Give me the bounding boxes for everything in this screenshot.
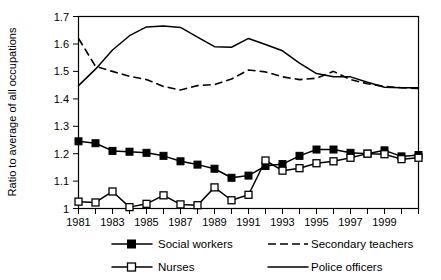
y-tick-label-1-1: 1.1	[54, 175, 69, 187]
x-tick-label-1995: 1995	[304, 216, 328, 228]
chart-figure: 1.7 1.6 1.5 1.4 1.3 1.2 1.1 1 Ratio to a…	[0, 0, 441, 280]
data-point-marker	[313, 160, 320, 167]
y-tick-label-1-2: 1.2	[54, 148, 69, 160]
data-point-marker	[279, 167, 286, 174]
y-tick-label-1-5: 1.5	[54, 65, 69, 77]
open-square-icon	[128, 263, 136, 271]
x-tick-label-1987: 1987	[168, 216, 192, 228]
legend: Social workers Nurses Secondary teachers…	[112, 238, 414, 273]
y-axis-title: Ratio to average of all occupations	[6, 27, 18, 196]
x-tick-label-1981: 1981	[66, 216, 90, 228]
data-point-marker	[92, 140, 99, 147]
data-point-marker	[143, 200, 150, 207]
data-point-marker	[381, 151, 388, 158]
y-tick-label-1-4: 1.4	[54, 93, 69, 105]
x-tick-label-1999: 1999	[372, 216, 396, 228]
data-point-marker	[398, 156, 405, 163]
x-tick-label-1985: 1985	[134, 216, 158, 228]
data-point-marker	[228, 174, 235, 181]
x-tick-label-1983: 1983	[100, 216, 124, 228]
data-point-marker	[296, 165, 303, 172]
y-tick-label-1: 1	[63, 203, 69, 215]
series-path	[79, 154, 419, 207]
y-axis-tick-labels: 1.7 1.6 1.5 1.4 1.3 1.2 1.1 1	[54, 11, 69, 215]
legend-item-police-officers[interactable]: Police officers	[268, 261, 383, 273]
legend-label-police-officers: Police officers	[311, 261, 383, 273]
legend-label-social-workers: Social workers	[158, 238, 233, 250]
data-point-marker	[364, 150, 371, 157]
data-point-marker	[75, 198, 82, 205]
y-axis-ticks	[73, 17, 79, 209]
data-point-marker	[126, 148, 133, 155]
data-point-marker	[75, 138, 82, 145]
plot-frame	[79, 17, 419, 209]
data-point-marker	[194, 202, 201, 209]
data-point-marker	[262, 157, 269, 164]
data-point-marker	[177, 201, 184, 208]
data-point-marker	[177, 158, 184, 165]
x-tick-label-1991: 1991	[236, 216, 260, 228]
series-nurses	[75, 150, 422, 210]
data-point-marker	[194, 161, 201, 168]
legend-item-social-workers[interactable]: Social workers	[112, 238, 233, 250]
series-police-officers	[79, 26, 419, 88]
data-point-marker	[330, 158, 337, 165]
data-point-marker	[313, 146, 320, 153]
x-axis-tick-labels: 1981 1983 1985 1987 1989 1991 1993 1995 …	[66, 216, 396, 228]
data-point-marker	[160, 152, 167, 159]
x-tick-label-1993: 1993	[270, 216, 294, 228]
legend-item-secondary-teachers[interactable]: Secondary teachers	[268, 238, 414, 250]
series-layer	[75, 26, 422, 211]
data-point-marker	[245, 191, 252, 198]
x-tick-label-1997: 1997	[338, 216, 362, 228]
data-point-marker	[330, 146, 337, 153]
data-point-marker	[347, 154, 354, 161]
data-point-marker	[211, 184, 218, 191]
data-point-marker	[92, 199, 99, 206]
legend-item-nurses[interactable]: Nurses	[112, 261, 195, 273]
data-point-marker	[143, 149, 150, 156]
y-tick-label-1-7: 1.7	[54, 11, 69, 23]
series-social-workers	[75, 138, 422, 181]
y-tick-label-1-6: 1.6	[54, 38, 69, 50]
legend-label-secondary-teachers: Secondary teachers	[311, 238, 414, 250]
filled-square-icon	[128, 240, 136, 248]
data-point-marker	[228, 197, 235, 204]
data-point-marker	[109, 147, 116, 154]
data-point-marker	[245, 172, 252, 179]
data-point-marker	[296, 152, 303, 159]
ratio-to-average-line-chart: 1.7 1.6 1.5 1.4 1.3 1.2 1.1 1 Ratio to a…	[0, 0, 441, 280]
data-point-marker	[160, 192, 167, 199]
legend-label-nurses: Nurses	[158, 261, 195, 273]
data-point-marker	[109, 188, 116, 195]
data-point-marker	[415, 154, 422, 161]
data-point-marker	[126, 204, 133, 211]
x-tick-label-1989: 1989	[202, 216, 226, 228]
y-tick-label-1-3: 1.3	[54, 120, 69, 132]
series-path	[79, 26, 419, 88]
data-point-marker	[211, 165, 218, 172]
